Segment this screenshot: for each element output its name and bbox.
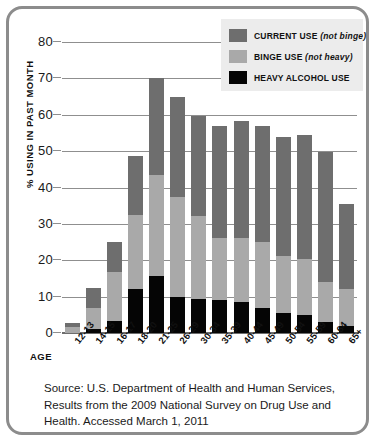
bar-segment-current-use-21-25 (149, 78, 164, 174)
legend-item-current-use: CURRENT USE (not binge) (229, 25, 359, 46)
bar-segment-binge-use-16-17 (107, 272, 122, 321)
x-tick-35-39: 35-39 (212, 336, 227, 376)
y-tick-label-50: 50 (38, 143, 53, 158)
bar-segment-binge-use-30-34 (191, 216, 206, 299)
bar-segment-binge-use-55-59 (297, 259, 312, 315)
chart-figure: % USING IN PAST MONTH 01020304050607080 … (0, 0, 375, 441)
x-tick-12-13: 12-13 (65, 336, 80, 376)
y-tick-mark-70 (53, 77, 61, 78)
bar-segment-binge-use-40-44 (234, 238, 249, 302)
bar-segment-binge-use-21-25 (149, 175, 164, 276)
y-tick-mark-50 (53, 150, 61, 151)
y-tick-mark-40 (53, 187, 61, 188)
caption-line-1: Source: U.S. Department of Health and Hu… (44, 380, 344, 397)
bar-16-17 (107, 42, 122, 333)
caption-line-2: Results from the 2009 National Survey on… (44, 397, 344, 414)
y-tick-label-40: 40 (38, 180, 53, 195)
y-tick-label-10: 10 (38, 289, 53, 304)
y-tick-label-20: 20 (38, 252, 53, 267)
y-tick-mark-0 (53, 332, 61, 333)
x-tick-21-25: 21-25 (149, 336, 164, 376)
x-tick-50-54: 50-54 (276, 336, 291, 376)
x-tick-14-15: 14-15 (86, 336, 101, 376)
x-tick-16-17: 16-17 (107, 336, 122, 376)
legend-label: HEAVY ALCOHOL USE (254, 73, 350, 83)
legend-note: (not heavy) (303, 52, 353, 62)
bar-26-29 (170, 42, 185, 333)
y-tick-label-30: 30 (38, 216, 53, 231)
chart-legend: CURRENT USE (not binge)BINGE USE (not he… (221, 19, 363, 91)
y-axis-title: % USING IN PAST MONTH (24, 61, 35, 189)
bar-12-13 (65, 42, 80, 333)
x-axis-ticks: 12-1314-1516-1718-2021-2526-2930-3435-39… (62, 336, 357, 376)
y-tick-label-80: 80 (38, 34, 53, 49)
bar-21-25 (149, 42, 164, 333)
bar-segment-current-use-55-59 (297, 135, 312, 259)
bar-segment-current-use-35-39 (212, 126, 227, 238)
x-tick-40-44: 40-44 (234, 336, 249, 376)
bar-segment-binge-use-26-29 (170, 197, 185, 298)
legend-swatch-icon (229, 71, 247, 84)
bar-segment-current-use-50-54 (276, 137, 291, 256)
bar-18-20 (128, 42, 143, 333)
y-tick-mark-30 (53, 223, 61, 224)
y-tick-label-70: 70 (38, 71, 53, 86)
bar-segment-current-use-60-64 (318, 152, 333, 283)
legend-item-heavy-alcohol-use: HEAVY ALCOHOL USE (229, 67, 359, 88)
legend-label: BINGE USE (not heavy) (254, 52, 353, 62)
bar-30-34 (191, 42, 206, 333)
bar-segment-binge-use-50-54 (276, 256, 291, 313)
bar-segment-current-use-16-17 (107, 242, 122, 272)
bar-segment-current-use-26-29 (170, 97, 185, 197)
y-tick-label-60: 60 (38, 107, 53, 122)
y-tick-label-0: 0 (45, 325, 53, 340)
y-tick-mark-10 (53, 296, 61, 297)
x-tick-26-29: 26-29 (170, 336, 185, 376)
y-tick-mark-60 (53, 114, 61, 115)
x-tick-45-49: 45-49 (255, 336, 270, 376)
bar-segment-current-use-65+ (339, 204, 354, 289)
x-tick-18-20: 18-20 (128, 336, 143, 376)
caption-line-3: Health. Accessed March 1, 2011 (44, 413, 344, 430)
x-tick-30-34: 30-34 (191, 336, 206, 376)
bar-14-15 (86, 42, 101, 333)
age-axis-label: AGE (30, 351, 52, 362)
bar-segment-current-use-18-20 (128, 156, 143, 215)
y-tick-mark-80 (53, 41, 61, 42)
bar-segment-current-use-14-15 (86, 288, 101, 309)
bar-segment-current-use-40-44 (234, 121, 249, 238)
legend-swatch-icon (229, 29, 247, 42)
legend-note: (not binge) (318, 31, 367, 41)
bar-segment-binge-use-18-20 (128, 215, 143, 290)
x-tick-55-59: 55-59 (297, 336, 312, 376)
source-caption: Source: U.S. Department of Health and Hu… (44, 380, 344, 430)
bar-segment-current-use-45-49 (255, 126, 270, 242)
y-tick-mark-20 (53, 259, 61, 260)
legend-item-binge-use: BINGE USE (not heavy) (229, 46, 359, 67)
bar-segment-current-use-30-34 (191, 116, 206, 216)
x-tick-65+: 65+ (339, 336, 354, 376)
x-tick-60-64: 60-64 (318, 336, 333, 376)
legend-swatch-icon (229, 50, 247, 63)
bar-segment-binge-use-60-64 (318, 282, 333, 321)
bar-segment-binge-use-35-39 (212, 238, 227, 301)
bar-segment-binge-use-45-49 (255, 242, 270, 307)
legend-label: CURRENT USE (not binge) (254, 31, 366, 41)
